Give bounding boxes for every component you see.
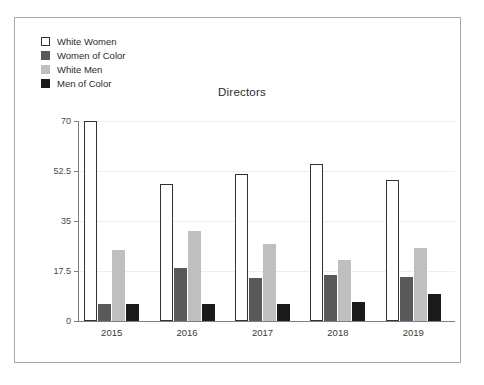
bar [98, 304, 111, 321]
y-axis-tick-label: 17.5 [53, 266, 71, 276]
bar [428, 294, 441, 321]
legend-item-label: White Men [57, 64, 102, 75]
x-axis-tick-label: 2015 [101, 327, 122, 338]
y-axis-tick-label: 35 [61, 216, 71, 226]
y-axis-tick-label: 52.5 [53, 166, 71, 176]
bar [338, 260, 351, 321]
legend-item: White Men [41, 63, 191, 76]
bar [263, 244, 276, 321]
chart-title: Directors [0, 86, 484, 98]
legend-item-label: White Women [57, 36, 116, 47]
x-axis-tick-label: 2018 [327, 327, 348, 338]
bar [400, 277, 413, 321]
bar [202, 304, 215, 321]
y-axis-tick [74, 271, 78, 272]
y-axis-tick [74, 121, 78, 122]
bar [249, 278, 262, 321]
chart-page: White WomenWomen of ColorWhite MenMen of… [0, 0, 484, 385]
bar [160, 184, 173, 321]
y-axis-tick [74, 321, 78, 322]
bar [112, 250, 125, 321]
bar [174, 268, 187, 321]
bar [324, 275, 337, 321]
bar [414, 248, 427, 321]
bar [126, 304, 139, 321]
bar [277, 304, 290, 321]
bar [352, 302, 365, 321]
chart-legend: White WomenWomen of ColorWhite MenMen of… [41, 35, 191, 91]
bar-group [386, 121, 441, 321]
y-axis [78, 121, 79, 321]
square-filled-swatch [41, 65, 50, 74]
bar [386, 180, 399, 321]
bar-group [160, 121, 215, 321]
y-axis-tick [74, 171, 78, 172]
bar-group [235, 121, 290, 321]
plot-area: 017.53552.57020152016201720182019 [78, 121, 455, 321]
x-axis-tick-label: 2016 [177, 327, 198, 338]
y-axis-tick [74, 221, 78, 222]
square-outline-swatch [41, 37, 50, 46]
bar-group [84, 121, 139, 321]
bar [235, 174, 248, 321]
bar [84, 121, 97, 321]
bar-group [310, 121, 365, 321]
bar [310, 164, 323, 321]
x-axis [78, 321, 455, 322]
bar [188, 231, 201, 321]
legend-item: White Women [41, 35, 191, 48]
legend-item: Women of Color [41, 49, 191, 62]
x-axis-tick-label: 2017 [252, 327, 273, 338]
square-filled-swatch [41, 51, 50, 60]
x-axis-tick-label: 2019 [403, 327, 424, 338]
y-axis-tick-label: 0 [66, 316, 71, 326]
legend-item-label: Women of Color [57, 50, 125, 61]
y-axis-tick-label: 70 [61, 116, 71, 126]
